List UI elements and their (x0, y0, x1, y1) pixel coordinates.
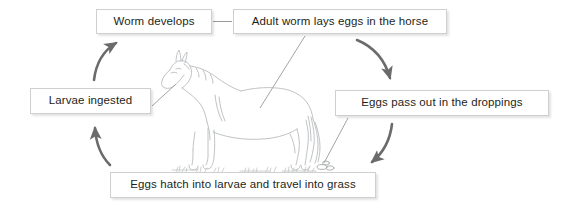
node-worm-develops[interactable]: Worm develops (96, 9, 212, 34)
node-larvae-ingested[interactable]: Larvae ingested (30, 88, 151, 114)
leader-line-eggs-droppings-to-droppings (324, 118, 348, 163)
node-worm-develops-label: Worm develops (106, 16, 201, 28)
leader-line-adult-worm-to-belly (260, 36, 305, 108)
arrow-adult-worm-to-eggs-droppings (357, 40, 390, 78)
leader-line-larvae-ingested-to-muzzle (152, 84, 176, 106)
node-eggs-hatch-into-larvae[interactable]: Eggs hatch into larvae and travel into g… (110, 172, 376, 198)
node-adult-worm-lays-eggs[interactable]: Adult worm lays eggs in the horse (233, 9, 447, 34)
arrow-eggs-droppings-to-eggs-hatch (372, 124, 392, 162)
arrow-larvae-ingested-to-worm-develops (94, 43, 116, 80)
node-eggs-hatch-into-larvae-label: Eggs hatch into larvae and travel into g… (123, 179, 363, 191)
node-eggs-pass-out-in-droppings-label: Eggs pass out in the droppings (354, 97, 529, 109)
node-larvae-ingested-label: Larvae ingested (42, 95, 140, 107)
life-cycle-diagram: Worm develops Adult worm lays eggs in th… (0, 0, 572, 206)
arrow-eggs-hatch-to-larvae-ingested (95, 128, 110, 165)
node-adult-worm-lays-eggs-label: Adult worm lays eggs in the horse (245, 16, 435, 28)
node-eggs-pass-out-in-droppings[interactable]: Eggs pass out in the droppings (335, 90, 549, 116)
